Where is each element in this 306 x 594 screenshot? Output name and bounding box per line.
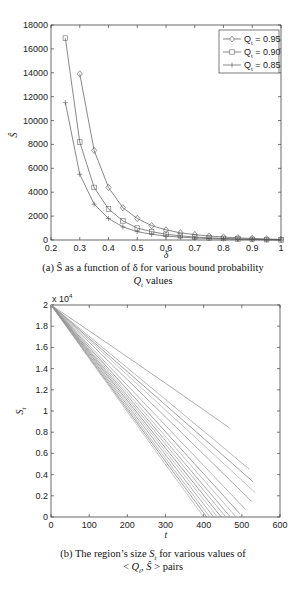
- series-line: [51, 305, 204, 517]
- series-line: [51, 305, 207, 517]
- y-tick-label: 6000: [28, 163, 48, 173]
- y-tick-label: 0.6: [35, 448, 48, 458]
- legend-item: Qt = 0.95: [244, 34, 280, 46]
- legend-item: Qt = 0.85: [244, 60, 280, 72]
- y-tick-label: 1.8: [35, 321, 48, 331]
- series-line: [51, 305, 251, 501]
- legend-item: Qt = 0.90: [244, 47, 280, 59]
- y-tick-label: 18000: [23, 20, 48, 30]
- x-tick-label: 1: [278, 243, 283, 253]
- y-tick-label: 1.6: [35, 342, 48, 352]
- x-tick-label: 600: [272, 520, 287, 530]
- y-axis-label: St: [14, 406, 28, 414]
- x-tick-label: 0.7: [188, 243, 201, 253]
- series-line: [51, 305, 253, 482]
- x-axis-label: t: [165, 529, 168, 540]
- x-tick-label: 0.5: [131, 243, 144, 253]
- x-tick-label: 400: [196, 520, 211, 530]
- series-line: [51, 305, 210, 517]
- x-axis-label: δ: [164, 249, 169, 260]
- y-tick-label: 1.4: [35, 364, 48, 374]
- series-line: [51, 305, 217, 517]
- x-tick-label: 0.8: [217, 243, 230, 253]
- series-line: [51, 305, 214, 517]
- y-tick-label: 4000: [28, 187, 48, 197]
- y-tick-label: 1: [43, 406, 48, 416]
- figure: 0.20.30.40.50.60.70.80.91020004000600080…: [0, 0, 306, 594]
- caption-b-line2: < Qt, Ŝ > pairs: [0, 560, 306, 578]
- y-tick-label: 8000: [28, 139, 48, 149]
- series-line: [51, 305, 236, 517]
- caption-a-line1: (a) Ŝ as a function of δ for various bou…: [0, 261, 306, 274]
- x-tick-label: 500: [234, 520, 249, 530]
- y-tick-label: 0.8: [35, 427, 48, 437]
- series-line: [51, 305, 226, 517]
- series-line: [51, 305, 255, 493]
- y-tick-label: 0: [43, 235, 48, 245]
- x-tick-label: 0: [48, 520, 53, 530]
- y-tick-label: 12000: [23, 92, 48, 102]
- x-tick-label: 0.4: [102, 243, 115, 253]
- y-multiplier: x 104: [52, 293, 73, 304]
- y-tick-label: 0.4: [35, 470, 48, 480]
- series-line: [51, 305, 221, 517]
- x-tick-label: 0.9: [246, 243, 259, 253]
- x-tick-label: 100: [82, 520, 97, 530]
- y-tick-label: 0: [43, 512, 48, 522]
- y-tick-label: 0.2: [35, 491, 48, 501]
- x-tick-label: 200: [120, 520, 135, 530]
- y-tick-label: 2: [43, 300, 48, 310]
- series-line: [51, 305, 230, 517]
- series-line: [80, 74, 281, 239]
- series-line: [51, 305, 246, 510]
- caption-a-line2: Qt values: [0, 274, 306, 292]
- y-tick-label: 1.2: [35, 385, 48, 395]
- y-tick-label: 2000: [28, 211, 48, 221]
- series-line: [51, 305, 240, 514]
- series-line: [65, 103, 281, 240]
- series-line: [51, 305, 249, 469]
- y-tick-label: 14000: [23, 68, 48, 78]
- x-tick-label: 0.3: [73, 243, 86, 253]
- y-tick-label: 10000: [23, 116, 48, 126]
- y-tick-label: 16000: [23, 44, 48, 54]
- series-line: [51, 305, 230, 428]
- y-axis-label: Ŝ: [8, 133, 19, 138]
